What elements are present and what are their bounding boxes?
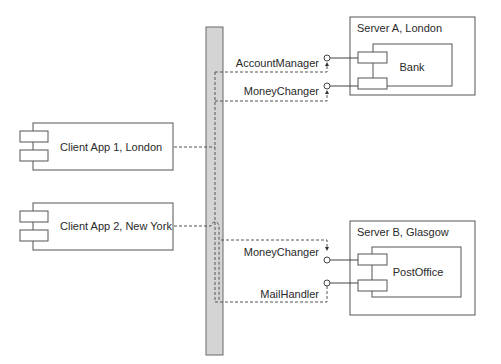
- client-app-1: Client App 1, London: [20, 123, 173, 170]
- lollipop-accountmanager-icon: [324, 55, 330, 61]
- node-server-b: Server B, Glasgow PostOffice: [350, 221, 475, 315]
- client-1-label: Client App 1, London: [60, 141, 162, 153]
- server-b-label: Server B, Glasgow: [357, 226, 449, 238]
- iface-moneychanger-b-label: MoneyChanger: [244, 246, 320, 258]
- client-1-port-top: [20, 131, 48, 142]
- iface-moneychanger-a-label: MoneyChanger: [244, 85, 320, 97]
- node-server-a: Server A, London Bank: [350, 17, 475, 95]
- client-1-port-bottom: [20, 150, 48, 161]
- iface-accountmanager-label: AccountManager: [236, 57, 319, 69]
- postoffice-port-top: [358, 254, 387, 265]
- bank-label: Bank: [399, 61, 425, 73]
- bank-port-bottom: [358, 78, 387, 89]
- arrow-moneychanger-a: [325, 90, 329, 94]
- bank-port-top: [358, 52, 387, 63]
- client-2-label: Client App 2, New York: [60, 220, 172, 232]
- lollipop-moneychanger-b-icon: [324, 257, 330, 263]
- postoffice-label: PostOffice: [393, 266, 444, 278]
- iface-mailhandler-label: MailHandler: [260, 288, 319, 300]
- client-app-2: Client App 2, New York: [20, 203, 173, 250]
- component-postoffice: PostOffice: [358, 247, 461, 297]
- client-2-port-bottom: [20, 230, 48, 241]
- postoffice-port-bottom: [358, 280, 387, 291]
- lollipop-moneychanger-a-icon: [324, 83, 330, 89]
- arrow-accountmanager: [325, 62, 329, 66]
- client-2-port-top: [20, 211, 48, 222]
- component-diagram: Server A, London Bank Server B, Glasgow …: [0, 0, 501, 364]
- server-a-label: Server A, London: [357, 22, 442, 34]
- communication-bus: [206, 27, 223, 355]
- arrow-moneychanger-b: [325, 247, 329, 251]
- lollipop-mailhandler-icon: [324, 280, 330, 286]
